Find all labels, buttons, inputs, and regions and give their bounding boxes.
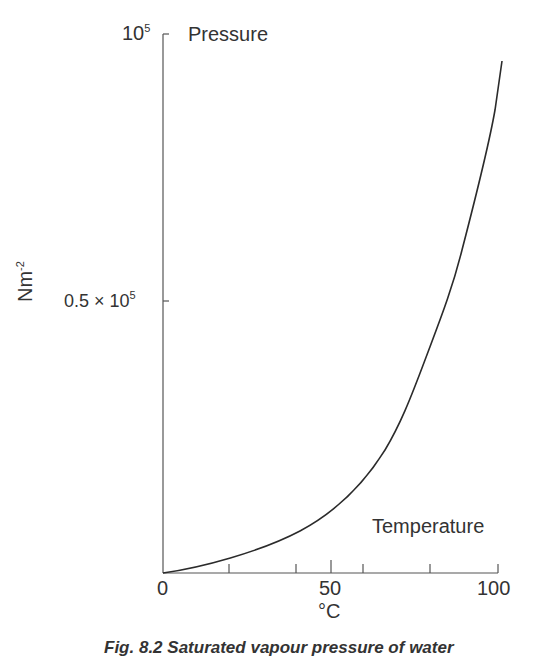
x-axis-title: Temperature [372,515,484,538]
y-axis-title: Pressure [188,23,268,46]
pressure-curve [163,61,502,573]
y-tick-label-mid: 0.5 × 105 [64,289,136,312]
figure-caption: Fig. 8.2 Saturated vapour pressure of wa… [104,638,454,658]
x-axis-unit: °C [318,600,340,623]
x-tick-label-50: 50 [319,577,341,600]
x-tick-label-0: 0 [157,577,168,600]
y-axis-unit: Nm-2 [14,261,37,302]
x-ticks [229,560,498,573]
x-tick-label-100: 100 [477,577,510,600]
y-tick-label-top: 105 [122,22,150,45]
